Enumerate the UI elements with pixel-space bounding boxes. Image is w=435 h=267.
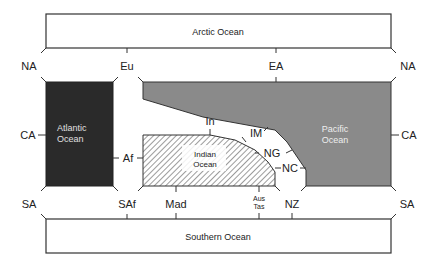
label-tas: Tas bbox=[254, 203, 265, 210]
indian-ocean-label-1: Indian bbox=[194, 150, 216, 159]
label-ng: NG bbox=[264, 147, 281, 159]
label-aus: Aus bbox=[253, 195, 266, 202]
label-in: In bbox=[205, 115, 214, 127]
label-nz: NZ bbox=[285, 198, 300, 210]
indian-ocean-label-2: Ocean bbox=[193, 160, 217, 169]
southern-ocean-label: Southern Ocean bbox=[185, 232, 251, 242]
pacific-ocean-label-1: Pacific bbox=[322, 124, 349, 134]
label-eu: Eu bbox=[120, 60, 133, 72]
label-nc: NC bbox=[282, 162, 298, 174]
label-ca-right: CA bbox=[401, 129, 417, 141]
label-saf: SAf bbox=[118, 198, 137, 210]
label-im: IM bbox=[250, 127, 262, 139]
arctic-ocean-label: Arctic Ocean bbox=[192, 27, 244, 37]
label-na-left: NA bbox=[21, 60, 37, 72]
label-ca-left: CA bbox=[20, 129, 36, 141]
label-af: Af bbox=[123, 152, 134, 164]
label-ea: EA bbox=[269, 60, 284, 72]
label-sa-right: SA bbox=[400, 198, 415, 210]
ocean-connectivity-diagram: Arctic Ocean Southern Ocean Atlantic Oce… bbox=[0, 0, 435, 267]
atlantic-ocean-label-2: Ocean bbox=[57, 134, 84, 144]
atlantic-ocean-label-1: Atlantic bbox=[57, 123, 87, 133]
pacific-ocean-label-2: Ocean bbox=[322, 135, 349, 145]
label-sa-left: SA bbox=[22, 198, 37, 210]
label-na-right: NA bbox=[400, 60, 416, 72]
label-mad: Mad bbox=[165, 198, 186, 210]
